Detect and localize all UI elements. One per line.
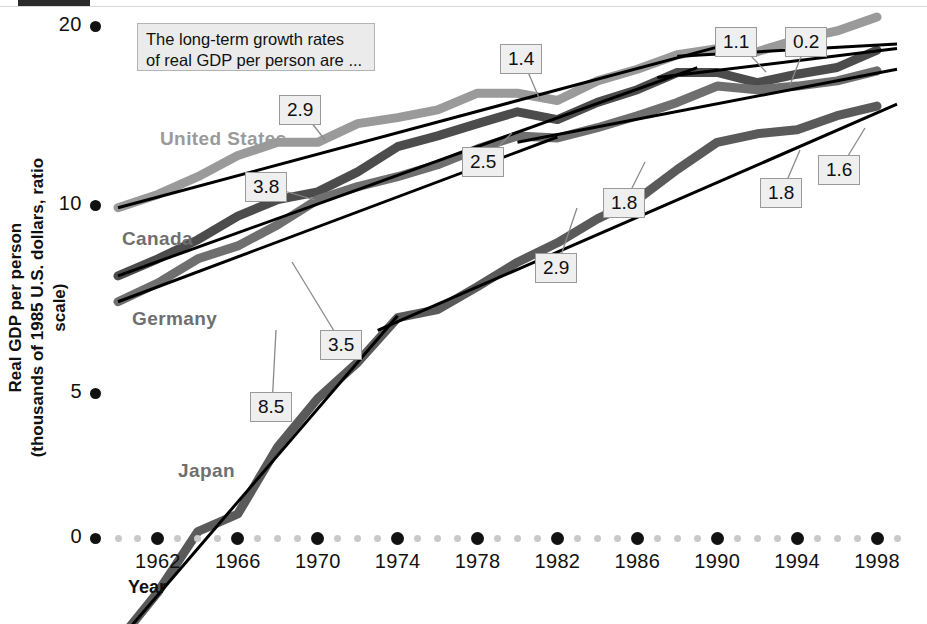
x-tick-label-1978: 1978 [443,550,513,573]
series-label-japan: Japan [178,460,235,482]
growth-rate-callout: 1.1 [715,27,757,57]
series-label-germany: Germany [132,308,217,330]
x-tick-label-1962: 1962 [123,550,193,573]
x-minor-dot [414,535,421,542]
x-minor-dot [374,535,381,542]
x-minor-dot [614,535,621,542]
x-tick-label-1998: 1998 [842,550,912,573]
x-minor-dot [494,535,501,542]
x-minor-dot [654,535,661,542]
growth-rate-callout: 8.5 [250,392,292,422]
x-minor-dot [534,535,541,542]
y-tick-label-20: 20 [42,13,82,36]
x-minor-dot [454,535,461,542]
growth-rate-callout: 1.6 [818,155,860,185]
x-minor-dot [734,535,741,542]
x-minor-dot [814,535,821,542]
y-tick-dot-0 [90,533,101,544]
y-tick-dot-20 [90,21,101,32]
x-minor-dot [274,535,281,542]
x-minor-dot [694,535,701,542]
x-minor-dot [434,535,441,542]
x-tick-dot-1970 [311,532,324,545]
x-tick-dot-1998 [871,532,884,545]
x-tick-dot-1990 [711,532,724,545]
x-minor-dot [834,535,841,542]
y-tick-label-5: 5 [42,380,82,403]
growth-rate-callout: 2.9 [279,95,321,125]
x-minor-dot [294,535,301,542]
growth-rate-callout: 2.5 [462,147,504,177]
x-minor-dot [254,535,261,542]
x-tick-label-1970: 1970 [283,550,353,573]
y-tick-dot-5 [90,388,101,399]
y-tick-label-10: 10 [42,192,82,215]
x-tick-dot-1982 [551,532,564,545]
trend-line-germany-late [517,69,897,142]
y-tick-label-0: 0 [42,525,82,548]
x-tick-label-1982: 1982 [522,550,592,573]
growth-rate-callout: 1.8 [760,178,802,208]
x-minor-dot [334,535,341,542]
chart-figure: Real GDP per person (thousands of 1985 U… [0,0,927,624]
x-tick-label-1986: 1986 [602,550,672,573]
x-minor-dot [514,535,521,542]
x-minor-dot [594,535,601,542]
growth-rate-callout: 3.8 [245,172,287,202]
growth-rate-callout: 0.2 [785,27,827,57]
growth-rate-callout: 1.8 [603,188,645,218]
x-tick-dot-1966 [231,532,244,545]
x-tick-label-1990: 1990 [682,550,752,573]
x-minor-dot [354,535,361,542]
y-tick-dot-10 [90,200,101,211]
growth-rate-callout: 2.9 [535,253,577,283]
x-axis-title: Year [128,577,166,598]
x-tick-dot-1994 [791,532,804,545]
growth-rate-callout: 3.5 [320,330,362,360]
x-minor-dot [894,535,901,542]
x-minor-dot [115,535,122,542]
x-minor-dot [174,535,181,542]
x-minor-dot [774,535,781,542]
x-tick-dot-1962 [151,532,164,545]
series-label-united-states: United States [160,128,287,150]
x-tick-label-1994: 1994 [762,550,832,573]
x-minor-dot [754,535,761,542]
series-label-canada: Canada [122,228,193,250]
x-tick-label-1974: 1974 [363,550,433,573]
x-tick-dot-1986 [631,532,644,545]
x-minor-dot [214,535,221,542]
x-tick-dot-1978 [471,532,484,545]
growth-rate-callout: 1.4 [500,44,542,74]
x-minor-dot [574,535,581,542]
x-tick-label-1966: 1966 [203,550,273,573]
x-minor-dot [194,535,201,542]
x-tick-dot-1974 [391,532,404,545]
x-minor-dot [674,535,681,542]
x-minor-dot [854,535,861,542]
